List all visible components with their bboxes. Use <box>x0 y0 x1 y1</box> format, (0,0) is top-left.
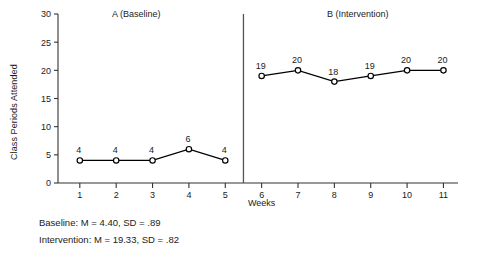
x-tick-label: 3 <box>150 190 155 200</box>
data-point-marker <box>368 73 373 78</box>
data-point-label: 18 <box>328 67 338 77</box>
x-tick-label: 9 <box>368 190 373 200</box>
data-point-marker <box>186 147 191 152</box>
y-tick-label: 0 <box>46 178 51 188</box>
data-point-marker <box>113 158 118 163</box>
x-tick-label: 2 <box>114 190 119 200</box>
data-point-label: 19 <box>365 61 375 71</box>
data-point-marker <box>332 79 337 84</box>
x-tick-label: 4 <box>186 190 191 200</box>
data-point-label: 6 <box>185 134 190 144</box>
single-subject-ab-chart: Class Periods Attended Weeks A (Baseline… <box>0 0 503 256</box>
data-point-marker <box>259 73 264 78</box>
data-point-marker <box>295 68 300 73</box>
x-tick-label: 6 <box>259 190 264 200</box>
x-tick-label: 1 <box>77 190 82 200</box>
x-tick-label: 8 <box>332 190 337 200</box>
data-point-label: 20 <box>401 55 411 65</box>
data-point-marker <box>441 68 446 73</box>
y-tick-label: 5 <box>46 150 51 160</box>
data-point-marker <box>150 158 155 163</box>
data-point-label: 19 <box>256 61 266 71</box>
stat-line-intervention: Intervention: M = 19.33, SD = .82 <box>39 231 179 248</box>
y-tick-label: 20 <box>41 66 51 76</box>
data-point-label: 20 <box>437 55 447 65</box>
x-tick-label: 11 <box>439 190 448 200</box>
data-point-label: 4 <box>222 145 227 155</box>
x-tick-label: 10 <box>402 190 412 200</box>
y-tick-label: 25 <box>41 38 51 48</box>
x-tick-label: 5 <box>223 190 228 200</box>
data-point-label: 4 <box>113 145 118 155</box>
data-point-marker <box>223 158 228 163</box>
data-point-marker <box>77 158 82 163</box>
y-tick-label: 30 <box>41 9 51 19</box>
series-line-phase-2 <box>262 70 444 81</box>
x-tick-label: 7 <box>295 190 300 200</box>
data-point-label: 20 <box>292 55 302 65</box>
stat-line-baseline: Baseline: M = 4.40, SD = .89 <box>39 214 179 231</box>
y-tick-label: 10 <box>41 122 51 132</box>
data-point-label: 4 <box>149 145 154 155</box>
data-point-label: 4 <box>76 145 81 155</box>
y-tick-label: 15 <box>41 94 51 104</box>
summary-statistics: Baseline: M = 4.40, SD = .89 Interventio… <box>39 214 179 248</box>
data-point-marker <box>404 68 409 73</box>
